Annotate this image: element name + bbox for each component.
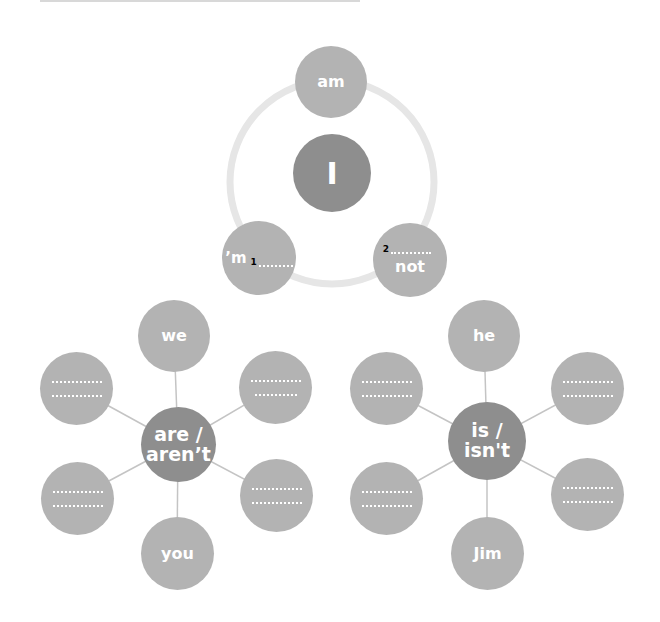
answer-blank[interactable]	[563, 395, 613, 397]
center-label-line2: aren’t	[146, 445, 211, 465]
not-label: not	[395, 258, 425, 276]
center-label: I	[326, 156, 337, 191]
center-node-are: are / aren’t	[141, 407, 216, 482]
node-label: Jim	[473, 545, 501, 563]
center-label-line2: isn't	[464, 441, 510, 461]
node-label: he	[473, 327, 495, 345]
blank-node-bottom-right	[551, 458, 624, 531]
question-number-2: 2	[383, 244, 389, 254]
node-am: am	[295, 46, 367, 118]
center-node-is: is / isn't	[448, 402, 526, 480]
answer-blank-2[interactable]	[391, 252, 431, 254]
answer-blank[interactable]	[53, 505, 103, 507]
answer-blank[interactable]	[362, 505, 412, 507]
node-not: 2 not	[373, 223, 447, 297]
contraction-row: ’m 1	[225, 249, 293, 267]
answer-blank[interactable]	[251, 380, 301, 382]
node-label: am	[317, 73, 344, 91]
blank-node-bottom-right	[240, 459, 313, 532]
blank-node-bottom-left	[41, 462, 114, 535]
blank-node-top-left	[350, 352, 423, 425]
answer-blank[interactable]	[252, 502, 302, 504]
node-jim: Jim	[451, 517, 524, 590]
center-label-line1: are /	[154, 425, 203, 445]
blank-node-top-right	[551, 352, 624, 425]
blank-node-bottom-left	[350, 462, 423, 535]
answer-blank[interactable]	[362, 395, 412, 397]
center-label-line1: is /	[471, 421, 502, 441]
answer-blank[interactable]	[563, 487, 613, 489]
answer-blank[interactable]	[255, 394, 297, 396]
question-number-1: 1	[251, 257, 257, 267]
not-blank-row: 2	[383, 244, 431, 254]
contraction-prefix: ’m	[225, 249, 246, 267]
node-label: we	[161, 327, 187, 345]
answer-blank[interactable]	[563, 381, 613, 383]
node-contraction-m: ’m 1	[222, 221, 296, 295]
answer-blank[interactable]	[52, 395, 102, 397]
answer-blank[interactable]	[362, 381, 412, 383]
answer-blank[interactable]	[563, 501, 613, 503]
blank-node-top-right	[239, 351, 312, 424]
blank-node-top-left	[40, 352, 113, 425]
answer-blank-1[interactable]	[259, 265, 293, 267]
node-we: we	[138, 300, 210, 372]
answer-blank[interactable]	[52, 381, 102, 383]
node-you: you	[141, 517, 214, 590]
node-label: you	[161, 545, 194, 563]
answer-blank[interactable]	[53, 491, 103, 493]
center-node-i: I	[293, 134, 371, 212]
answer-blank[interactable]	[362, 491, 412, 493]
answer-blank[interactable]	[252, 488, 302, 490]
node-he: he	[448, 300, 520, 372]
